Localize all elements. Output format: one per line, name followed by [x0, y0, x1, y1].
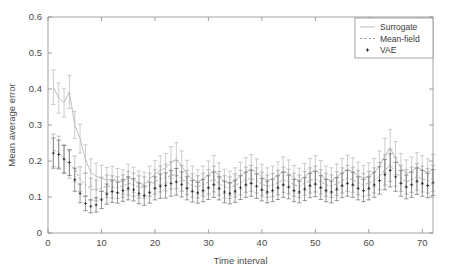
y-tick-label: 0.2 — [29, 155, 42, 166]
chart-figure: 01020304050607000.10.20.30.40.50.6Time i… — [0, 0, 456, 270]
x-tick-label: 0 — [45, 237, 50, 248]
legend-label: VAE — [380, 45, 397, 55]
chart-canvas: 01020304050607000.10.20.30.40.50.6Time i… — [0, 0, 456, 270]
chart-legend[interactable]: SurrogateMean-fieldVAE — [355, 18, 433, 58]
x-tick-label: 60 — [364, 237, 375, 248]
y-tick-label: 0.5 — [29, 47, 42, 58]
x-tick-label: 70 — [417, 237, 428, 248]
y-tick-label: 0.1 — [29, 191, 42, 202]
y-tick-label: 0.4 — [29, 83, 42, 94]
y-tick-label: 0.6 — [29, 11, 42, 22]
x-tick-label: 10 — [96, 237, 107, 248]
x-tick-label: 30 — [203, 237, 214, 248]
legend-label: Surrogate — [380, 22, 418, 32]
x-tick-label: 40 — [257, 237, 268, 248]
y-tick-label: 0.3 — [29, 119, 42, 130]
y-axis-title: Mean average error — [6, 83, 17, 166]
series-layer — [51, 70, 435, 213]
x-tick-label: 50 — [310, 237, 321, 248]
x-axis-title: Time interval — [213, 255, 267, 266]
y-tick-label: 0 — [37, 227, 42, 238]
error-bars — [51, 138, 435, 213]
series-vae — [51, 138, 435, 213]
legend-label: Mean-field — [380, 34, 420, 44]
x-tick-label: 20 — [150, 237, 161, 248]
